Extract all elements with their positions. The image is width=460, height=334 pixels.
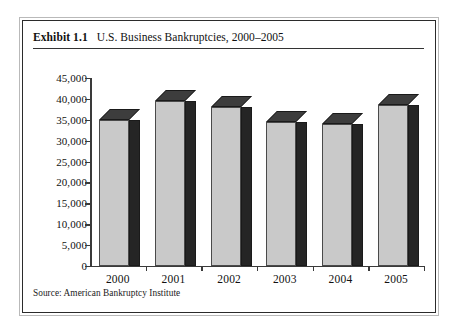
- bar-front-face: [99, 120, 129, 266]
- y-axis-tick-label: 5,000: [33, 240, 87, 251]
- bar-top-face: [322, 113, 363, 124]
- x-axis-tick-mark: [424, 266, 425, 271]
- bar-front-face: [211, 107, 241, 266]
- bars-container: [90, 78, 424, 266]
- y-axis-tick-label: 45,000: [33, 73, 87, 84]
- x-axis-tick-label: 2001: [146, 272, 202, 286]
- y-axis-tick-mark: [85, 99, 91, 100]
- y-axis-tick-mark: [85, 266, 91, 267]
- bar-top-face: [155, 90, 196, 101]
- bar-side-face: [185, 101, 196, 266]
- bar-front-face: [378, 105, 408, 266]
- bar-front-face: [322, 124, 352, 266]
- x-axis-tick-mark: [257, 266, 258, 271]
- bar-top-face: [211, 96, 252, 107]
- bar-side-face: [296, 122, 307, 266]
- y-axis-tick-mark: [85, 141, 91, 142]
- y-axis-tick-mark: [85, 245, 91, 246]
- y-axis-tick-label: 0: [33, 261, 87, 272]
- y-axis-tick-mark: [85, 224, 91, 225]
- y-axis-tick-mark: [85, 120, 91, 121]
- bar-front-face: [155, 101, 185, 266]
- bar-top-face: [99, 109, 140, 120]
- bar-side-face: [129, 120, 140, 266]
- x-axis-tick-label: 2003: [257, 272, 313, 286]
- x-axis-tick-mark: [313, 266, 314, 271]
- x-axis-tick-mark: [146, 266, 147, 271]
- y-axis-tick-mark: [85, 162, 91, 163]
- bar-front-face: [266, 122, 296, 266]
- title-divider-rule: [33, 48, 424, 49]
- figure-title-row: Exhibit 1.1U.S. Business Bankruptcies, 2…: [33, 27, 425, 47]
- bar-top-face: [378, 94, 419, 105]
- source-note: Source: American Bankruptcy Institute: [33, 288, 180, 298]
- y-axis-tick-label: 30,000: [33, 135, 87, 146]
- x-axis-tick-label: 2000: [90, 272, 146, 286]
- exhibit-figure: Exhibit 1.1U.S. Business Bankruptcies, 2…: [0, 0, 460, 334]
- bar-top-face: [266, 111, 307, 122]
- y-axis-tick-label: 40,000: [33, 93, 87, 104]
- bar-column: [155, 90, 196, 266]
- x-axis-tick-label: 2004: [313, 272, 369, 286]
- exhibit-number-label: Exhibit 1.1: [33, 31, 88, 43]
- y-axis-tick-mark: [85, 78, 91, 79]
- bar-side-face: [408, 105, 419, 266]
- bar-side-face: [352, 124, 363, 266]
- y-axis-labels: 05,00010,00015,00020,00025,00030,00035,0…: [33, 56, 87, 266]
- y-axis-tick-mark: [85, 203, 91, 204]
- bar-column: [211, 96, 252, 266]
- y-axis-tick-label: 20,000: [33, 177, 87, 188]
- bar-column: [322, 113, 363, 266]
- y-axis-tick-label: 15,000: [33, 198, 87, 209]
- x-axis-tick-mark: [368, 266, 369, 271]
- exhibit-title-text: U.S. Business Bankruptcies, 2000–2005: [97, 31, 284, 43]
- x-axis-tick-label: 2005: [368, 272, 424, 286]
- y-axis-tick-label: 25,000: [33, 156, 87, 167]
- x-axis-tick-label: 2002: [201, 272, 257, 286]
- y-axis-tick-label: 10,000: [33, 219, 87, 230]
- bar-column: [266, 111, 307, 266]
- y-axis-tick-label: 35,000: [33, 114, 87, 125]
- bar-column: [378, 94, 419, 266]
- x-axis-tick-mark: [201, 266, 202, 271]
- bar-side-face: [241, 107, 252, 266]
- bar-column: [99, 109, 140, 266]
- chart-plot-area: 05,00010,00015,00020,00025,00030,00035,0…: [33, 56, 424, 278]
- y-axis-tick-mark: [85, 182, 91, 183]
